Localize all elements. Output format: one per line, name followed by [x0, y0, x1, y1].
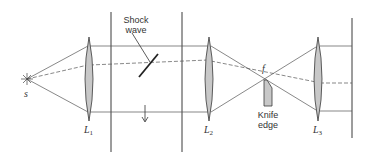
lens-l3-label: L3 — [313, 124, 322, 137]
ray-source-center-dashed — [27, 65, 88, 79]
shock-wave-pointer — [132, 33, 150, 62]
ray-l2-upper-cross — [211, 46, 316, 110]
knife-edge — [264, 80, 272, 106]
lens-l3-subscript: 3 — [319, 129, 323, 137]
focal-point-label: f — [262, 63, 265, 74]
ray-source-lower — [27, 79, 88, 112]
shock-wave — [139, 54, 158, 77]
lens-l1-label: L1 — [84, 124, 93, 137]
lens-l3 — [314, 37, 322, 121]
ray-l2-lower-cross — [211, 47, 316, 112]
shock-wave-label: Shock wave — [118, 15, 154, 35]
knife-edge-label-line2: edge — [252, 120, 284, 130]
lens-l2 — [205, 37, 213, 121]
knife-edge-label-line1: Knife — [252, 110, 284, 120]
shock-wave-label-line2: wave — [118, 25, 154, 35]
lens-l1-subscript: 1 — [90, 129, 94, 137]
lens-l1 — [85, 37, 93, 121]
source-label: s — [24, 88, 28, 99]
ray-source-upper — [27, 46, 88, 79]
knife-edge-label: Knife edge — [252, 110, 284, 130]
lens-l2-label: L2 — [204, 124, 213, 137]
shock-wave-label-line1: Shock — [118, 15, 154, 25]
light-source-icon — [21, 73, 33, 85]
lens-l2-subscript: 2 — [210, 129, 214, 137]
